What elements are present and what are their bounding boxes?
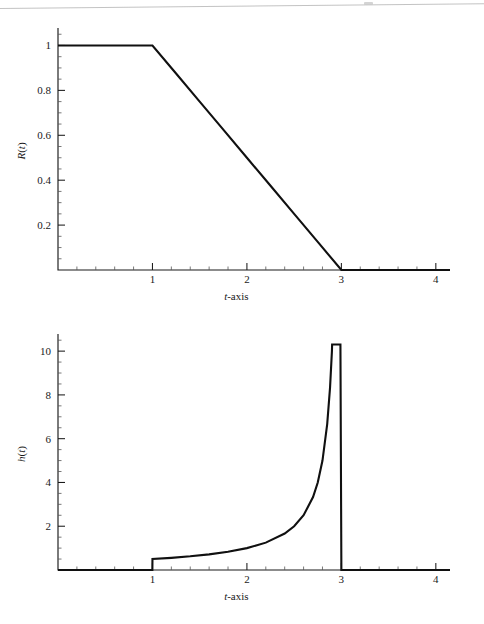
y-axis-label: R(t) [15,142,28,160]
x-tick-label: 4 [433,573,439,585]
scan-speck-artifact [364,2,373,5]
y-tick-label: 10 [40,345,52,357]
y-tick-label: 0.2 [37,219,51,231]
y-axis-label: h(t) [15,446,28,462]
hazard-plot-svg: 1234246810h(t)t-axis [0,318,484,618]
x-tick-label: 2 [244,273,250,285]
x-axis-label: t-axis [224,290,248,302]
y-tick-label: 4 [46,476,52,488]
chart-panel-hazard: 1234246810h(t)t-axis [0,318,484,618]
y-tick-label: 1 [46,39,52,51]
chart-panel-reliability: 12340.20.40.60.81R(t)t-axis [0,14,484,304]
axis-lines [58,28,450,270]
x-axis-label: t-axis [224,590,248,602]
x-tick-label: 1 [150,573,156,585]
y-tick-label: 8 [46,389,52,401]
y-tick-label: 0.6 [37,129,51,141]
y-tick-label: 2 [46,520,52,532]
y-tick-label: 0.4 [37,174,51,186]
data-curve [58,45,450,270]
reliability-plot-svg: 12340.20.40.60.81R(t)t-axis [0,14,484,304]
y-tick-label: 6 [46,433,52,445]
data-curve [58,345,450,570]
y-tick-label: 0.8 [37,84,51,96]
x-tick-label: 3 [339,573,345,585]
x-tick-label: 3 [339,273,345,285]
x-tick-label: 4 [433,273,439,285]
x-tick-label: 1 [150,273,156,285]
x-tick-label: 2 [244,573,250,585]
axis-lines [58,334,450,570]
figure-root: 12340.20.40.60.81R(t)t-axis 1234246810h(… [0,0,484,624]
scan-rule-decoration [0,3,484,9]
